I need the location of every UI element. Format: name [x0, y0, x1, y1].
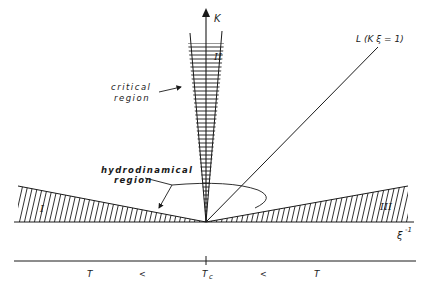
axis-label-xi-exponent: -1 [405, 226, 412, 234]
temp-label-Tc: T [202, 269, 209, 279]
region-I-label: I [39, 203, 45, 214]
temp-label-lt-right: < [260, 270, 267, 279]
region-I-hatch [4, 180, 224, 224]
critical-region-arrow [159, 87, 181, 92]
hydrodynamical-region-label-2: region [114, 175, 153, 185]
cone-left-edge [190, 33, 206, 222]
temp-label-Tc-sub: c [209, 273, 213, 281]
line-L-label: L (K ξ = 1) [356, 34, 404, 44]
region-III-label: III [379, 201, 393, 212]
critical-region-label-1: critical [111, 82, 151, 92]
axis-label-xi: ξ [396, 230, 403, 241]
phase-diagram: K II L (K ξ = 1) critical region hydrodi… [0, 0, 430, 286]
temp-label-lt-left: < [139, 270, 146, 279]
region-I-edge [18, 186, 206, 222]
temp-label-T-right: T [314, 269, 321, 279]
region-II-label: II [213, 51, 223, 62]
temp-label-T-left: T [87, 269, 94, 279]
axis-label-K: K [214, 13, 222, 24]
axis-arrow-icon [202, 8, 210, 17]
hydrodynamical-region-label-1: hydrodinamical [101, 165, 193, 175]
critical-region-label-2: region [114, 93, 150, 103]
